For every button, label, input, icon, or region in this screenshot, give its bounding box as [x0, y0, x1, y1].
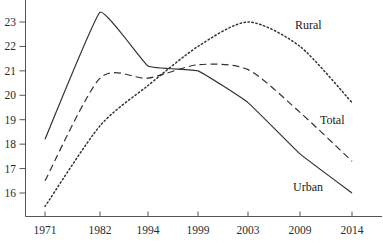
x-tick-label: 2003: [237, 224, 260, 236]
x-tick-label: 1999: [187, 224, 210, 236]
x-tick-label: 2009: [289, 224, 312, 236]
x-tick-label: 1971: [34, 224, 57, 236]
x-tick-label: 1982: [89, 224, 112, 236]
y-tick-label: 20: [5, 89, 17, 101]
y-tick-label: 22: [5, 40, 17, 52]
y-tick-label: 17: [5, 163, 17, 175]
chart-canvas: 1617181920212223 19711982199419992003200…: [0, 0, 383, 244]
series-label-rural: Rural: [295, 18, 322, 32]
y-tick-label: 19: [5, 114, 17, 126]
y-tick-label: 16: [5, 187, 17, 199]
x-tick-label: 1994: [137, 224, 160, 236]
y-tick-label: 18: [5, 138, 17, 150]
y-tick-label: 23: [5, 16, 17, 28]
series-label-urban: Urban: [293, 180, 323, 194]
y-tick-label: 21: [5, 65, 17, 77]
x-tick-label: 2014: [341, 224, 364, 236]
line-chart: 1617181920212223 19711982199419992003200…: [0, 0, 383, 244]
series-label-total: Total: [320, 113, 345, 127]
